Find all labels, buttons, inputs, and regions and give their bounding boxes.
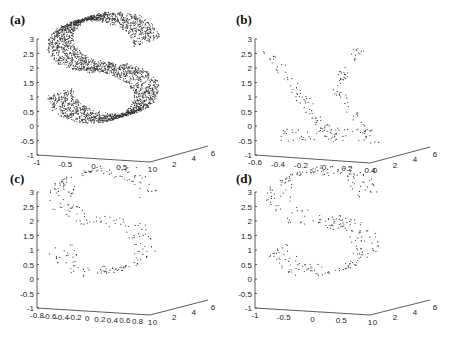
data-point [114, 115, 115, 116]
data-point [306, 172, 307, 173]
data-point [67, 23, 68, 24]
data-point [122, 68, 123, 69]
data-point [72, 207, 73, 208]
data-point [142, 248, 143, 249]
data-point [112, 66, 113, 67]
data-point [128, 108, 129, 109]
data-point [378, 142, 379, 143]
data-point [131, 25, 132, 26]
data-point [76, 28, 77, 29]
data-point [378, 245, 379, 246]
data-point [100, 62, 101, 63]
data-point [101, 170, 102, 171]
data-point [320, 165, 321, 166]
data-point [130, 110, 131, 111]
data-point [156, 98, 157, 99]
data-point [90, 171, 91, 172]
data-point [274, 193, 275, 194]
data-point [122, 27, 123, 28]
data-point [340, 220, 341, 221]
data-point [58, 55, 59, 56]
data-point [130, 28, 131, 29]
data-point [66, 114, 67, 115]
data-point [152, 88, 153, 89]
data-point [92, 68, 93, 69]
data-point [304, 216, 305, 217]
data-point [321, 128, 322, 129]
data-point [135, 90, 136, 91]
data-point [105, 69, 106, 70]
data-point [333, 141, 334, 142]
data-point [79, 51, 80, 52]
data-point [364, 133, 365, 134]
data-point [116, 70, 117, 71]
data-point [71, 29, 72, 30]
data-point [331, 138, 332, 139]
data-point [76, 221, 77, 222]
data-point [375, 233, 376, 234]
data-point [131, 37, 132, 38]
data-point [348, 166, 349, 167]
data-point [302, 266, 303, 267]
data-point [300, 93, 301, 94]
data-point [123, 17, 124, 18]
data-point [327, 227, 328, 228]
z-tick-label: 4 [191, 308, 196, 317]
data-point [74, 186, 75, 187]
data-point [311, 169, 312, 170]
data-point [157, 38, 158, 39]
data-point [113, 14, 114, 15]
data-point [66, 262, 67, 263]
y-tick-label: 3 [248, 35, 253, 44]
y-tick-label: 2 [248, 64, 253, 73]
data-point [127, 172, 128, 173]
data-point [130, 31, 131, 32]
data-point [283, 130, 284, 131]
data-point [135, 100, 136, 101]
z-axis [150, 146, 208, 162]
data-point [71, 117, 72, 118]
data-point [87, 68, 88, 69]
data-point [152, 27, 153, 28]
data-point [140, 111, 141, 112]
data-point [132, 87, 133, 88]
data-point [107, 15, 108, 16]
data-point [281, 136, 282, 137]
data-point [318, 131, 319, 132]
data-point [64, 94, 65, 95]
data-point [151, 98, 152, 99]
data-point [134, 70, 135, 71]
data-point [331, 129, 332, 130]
data-point [75, 113, 76, 114]
data-point [100, 65, 101, 66]
data-point [117, 118, 118, 119]
data-point [104, 14, 105, 15]
data-point [83, 20, 84, 21]
data-point [72, 97, 73, 98]
y-tick-label: 3 [30, 35, 35, 44]
data-point [48, 50, 49, 51]
data-point [51, 97, 52, 98]
data-point [97, 20, 98, 21]
data-point [353, 178, 354, 179]
data-point [336, 95, 337, 96]
data-point [61, 115, 62, 116]
data-point [61, 207, 62, 208]
z-tick-label: 2 [393, 313, 398, 322]
data-point [68, 30, 69, 31]
data-point [314, 139, 315, 140]
data-point [61, 41, 62, 42]
data-point [140, 259, 141, 260]
data-point [156, 80, 157, 81]
data-point [145, 36, 146, 37]
data-point [61, 38, 62, 39]
data-point [344, 77, 345, 78]
data-point [79, 207, 80, 208]
data-point [72, 257, 73, 258]
data-point [65, 46, 66, 47]
data-point [339, 93, 340, 94]
data-point [269, 58, 270, 59]
data-point [127, 26, 128, 27]
data-point [345, 74, 346, 75]
data-point [325, 225, 326, 226]
